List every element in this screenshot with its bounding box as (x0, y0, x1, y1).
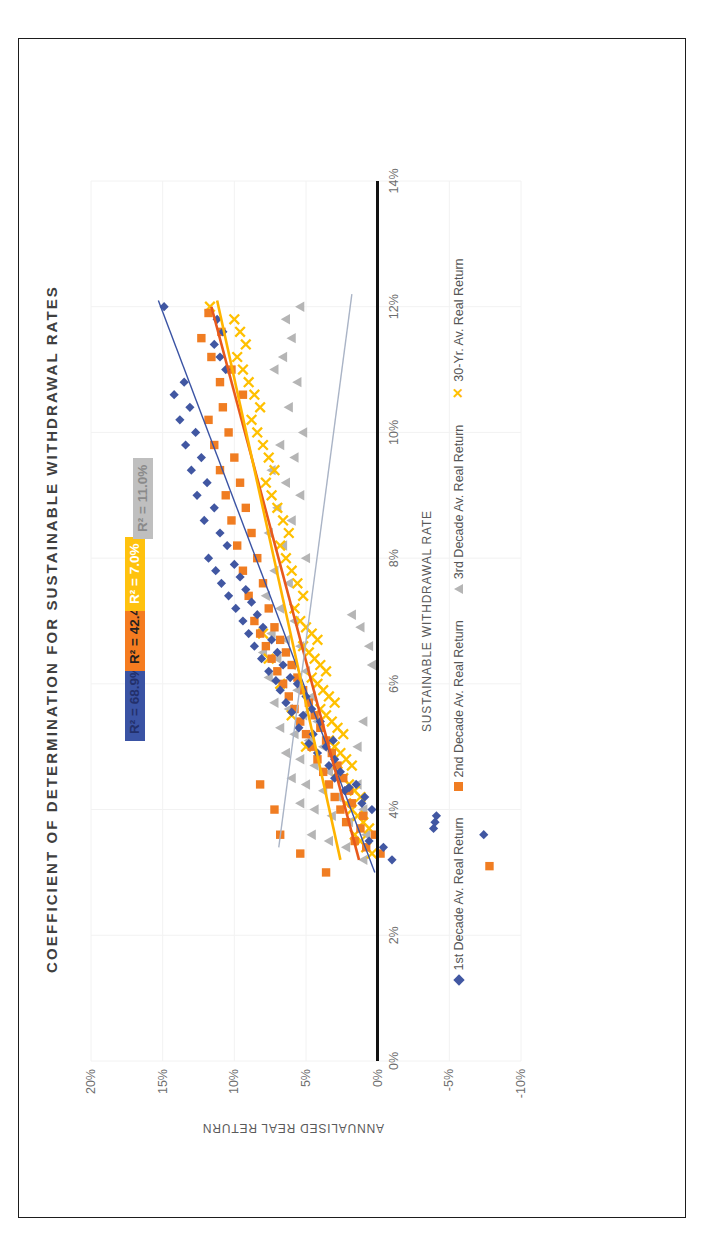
y-tick-label: -5% (442, 1069, 456, 1105)
legend-item[interactable]: 3rd Decade Av. Real Return (451, 424, 465, 594)
y-tick-label: 5% (299, 1069, 313, 1105)
x-tick-label: 4% (386, 800, 400, 818)
zero-baseline (375, 181, 378, 1061)
y-tick-label: 15% (155, 1069, 169, 1105)
chart-title: COEFFICIENT OF DETERMINATION FOR SUSTAIN… (43, 47, 60, 1211)
legend-label: 1st Decade Av. Real Return (451, 817, 465, 970)
diamond-icon (452, 973, 463, 984)
legend-item[interactable]: 1st Decade Av. Real Return (451, 817, 465, 983)
cross-icon: ✕ (453, 386, 464, 398)
square-icon (454, 782, 463, 791)
scanned-page: COEFFICIENT OF DETERMINATION FOR SUSTAIN… (0, 0, 707, 1257)
x-axis-title: SUSTAINABLE WITHDRAWAL RATE (419, 181, 433, 1061)
legend-item[interactable]: 2nd Decade Av. Real Return (451, 620, 465, 791)
legend-label: 3rd Decade Av. Real Return (451, 424, 465, 579)
y-tick-label: 10% (227, 1069, 241, 1105)
x-tick-label: 0% (386, 1051, 400, 1069)
y-tick-label: 20% (84, 1069, 98, 1105)
x-tick-label: 10% (386, 419, 400, 444)
y-tick-label: 0% (370, 1069, 384, 1105)
x-tick-label: 2% (386, 926, 400, 944)
chart-legend: 1st Decade Av. Real Return2nd Decade Av.… (451, 181, 465, 1061)
x-tick-label: 14% (386, 168, 400, 193)
r-squared-label: R² = 7.0% (125, 536, 145, 610)
x-tick-label: 12% (386, 294, 400, 319)
legend-item[interactable]: ✕30-Yr. Av. Real Return (451, 258, 465, 398)
r-squared-label: R² = 11.0% (133, 457, 153, 538)
legend-label: 2nd Decade Av. Real Return (451, 620, 465, 777)
x-tick-label: 8% (386, 549, 400, 567)
rotated-chart-figure: COEFFICIENT OF DETERMINATION FOR SUSTAIN… (29, 47, 679, 1211)
x-tick-label: 6% (386, 674, 400, 692)
y-tick-label: -10% (514, 1069, 528, 1105)
y-axis-title: ANNUALISED REAL RETURN (202, 1121, 384, 1135)
triangle-icon (454, 584, 463, 594)
legend-label: 30-Yr. Av. Real Return (451, 258, 465, 381)
